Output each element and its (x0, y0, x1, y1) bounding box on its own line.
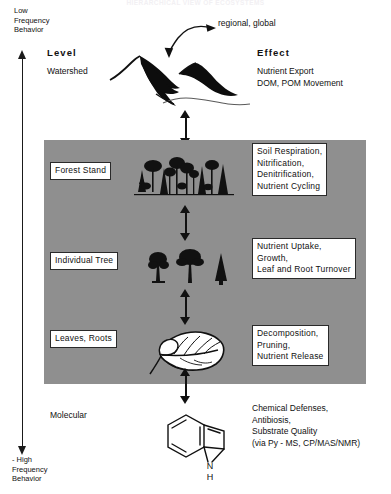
leaf-icon (148, 320, 238, 380)
frequency-axis-line (22, 58, 23, 450)
level-label-leaves-roots: Leaves, Roots (50, 330, 117, 348)
effect-label-forest-stand: Soil Respiration, Nitrification, Denitri… (252, 143, 327, 196)
double-arrow-leaves-molecular (180, 368, 191, 404)
level-label-watershed: Watershed (47, 66, 88, 78)
level-label-molecular: Molecular (50, 410, 87, 422)
page-title: HIERARCHICAL VIEW OF ECOSYSTEMS (0, 0, 391, 6)
column-header-level: Level (47, 47, 77, 58)
column-header-effect: Effect (257, 47, 290, 58)
individual-trees-icon (145, 245, 235, 287)
level-label-individual-tree: Individual Tree (50, 252, 118, 270)
axis-label-high-frequency: - High Frequency Behavior (12, 455, 47, 484)
molecule-hydrogen-label: H (207, 472, 214, 482)
level-label-forest-stand: Forest Stand (50, 162, 111, 180)
molecule-nitrogen-label: N (207, 461, 214, 471)
effect-label-leaves-roots: Decomposition, Pruning, Nutrient Release (252, 325, 329, 366)
axis-label-low-frequency: Low Frequency Behavior (14, 6, 49, 35)
effect-label-watershed: Nutrient Export DOM, POM Movement (257, 66, 343, 89)
effect-label-molecular: Chemical Defenses, Antibiosis, Substrate… (252, 403, 360, 449)
diagram-canvas: HIERARCHICAL VIEW OF ECOSYSTEMS Low Freq… (0, 0, 391, 494)
arrow-down-icon (18, 446, 26, 455)
double-arrow-forest-tree (180, 205, 191, 241)
forest-stand-trees-icon (130, 150, 240, 200)
indole-molecule-icon: N H (158, 405, 238, 477)
effect-label-individual-tree: Nutrient Uptake, Growth, Leaf and Root T… (252, 238, 356, 279)
